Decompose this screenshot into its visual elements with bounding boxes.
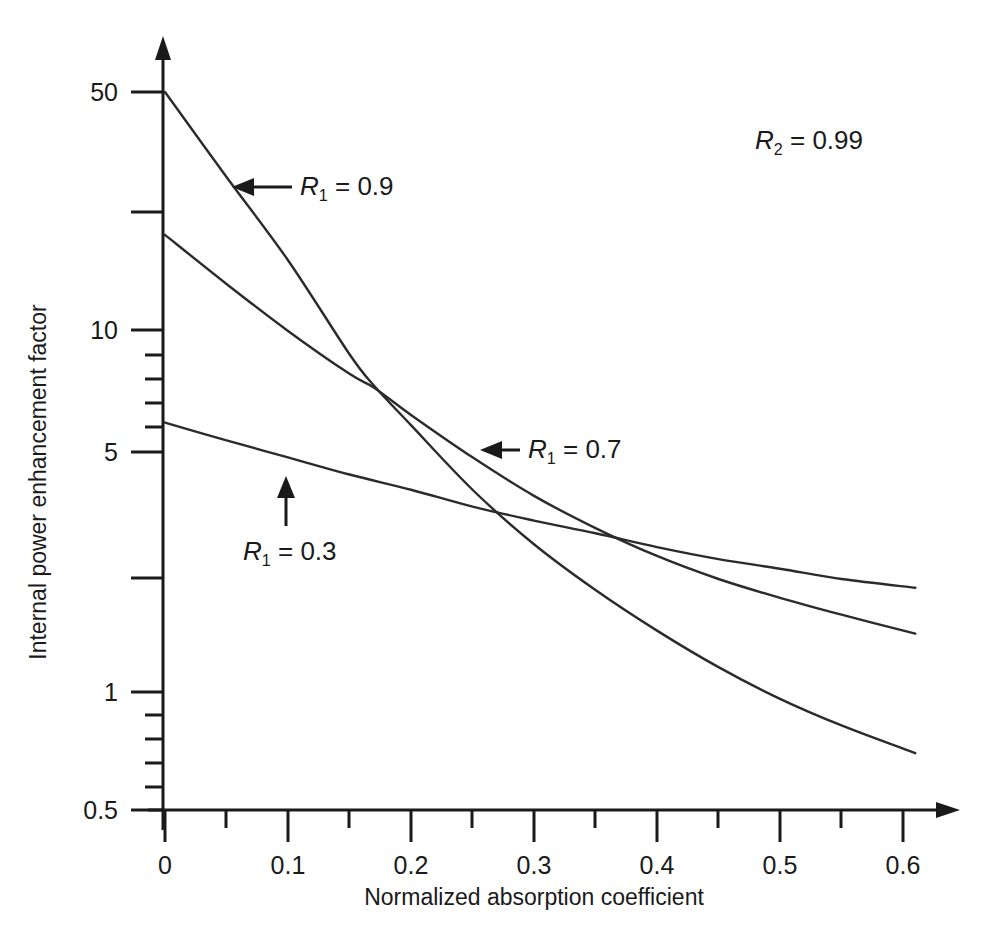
- y-tick-label-10: 10: [63, 318, 118, 343]
- x-axis-major-ticks: [165, 810, 903, 842]
- y-tick-label-5: 5: [63, 440, 118, 465]
- annotation-r1-07: R1 = 0.7: [528, 436, 622, 466]
- series-line-r1-0-9: [165, 92, 915, 753]
- annotation-r1-07-subscript: 1: [547, 449, 556, 467]
- annotation-r2: R2 = 0.99: [755, 127, 863, 157]
- data-series-group: [165, 92, 915, 753]
- y-axis-minor-ticks: [145, 355, 163, 787]
- y-axis-major-ticks: [131, 92, 163, 810]
- x-tick-label-0-1: 0.1: [271, 853, 306, 878]
- arrow-r1-09: [232, 178, 292, 196]
- x-tick-label-0: 0: [158, 853, 172, 878]
- x-tick-label-0-5: 0.5: [763, 853, 798, 878]
- x-tick-label-0-3: 0.3: [517, 853, 552, 878]
- x-tick-label-0-2: 0.2: [394, 853, 429, 878]
- annotation-r1-07-symbol: R: [528, 434, 547, 464]
- annotation-r1-03-value: = 0.3: [271, 536, 337, 566]
- y-tick-label-50: 50: [63, 80, 118, 105]
- arrow-r1-03: [277, 476, 295, 526]
- annotation-r2-symbol: R: [755, 125, 774, 155]
- y-axis: [155, 36, 171, 830]
- figure-canvas: 50 10 5 1 0.5 0 0.1 0.2 0.3 0.4 0.5 0.6 …: [0, 0, 1000, 945]
- annotation-r1-07-value: = 0.7: [556, 434, 622, 464]
- x-axis-title: Normalized absorption coefficient: [364, 886, 704, 909]
- annotation-r2-subscript: 2: [774, 140, 783, 158]
- annotation-r2-value: = 0.99: [783, 125, 863, 155]
- y-axis-title: Internal power enhancement factor: [25, 304, 52, 659]
- x-tick-label-0-4: 0.4: [640, 853, 675, 878]
- x-tick-label-0-6: 0.6: [886, 853, 921, 878]
- annotation-r1-09-symbol: R: [300, 171, 319, 201]
- y-tick-label-1: 1: [63, 680, 118, 705]
- annotation-r1-03-symbol: R: [243, 536, 262, 566]
- y-tick-label-0-5: 0.5: [43, 798, 118, 823]
- annotation-r1-09: R1 = 0.9: [300, 173, 394, 203]
- annotation-r1-09-subscript: 1: [319, 186, 328, 204]
- annotation-r1-03: R1 = 0.3: [243, 538, 337, 568]
- annotation-r1-09-value: = 0.9: [328, 171, 394, 201]
- arrow-r1-07: [480, 441, 520, 459]
- x-axis: [148, 802, 960, 818]
- annotation-r1-03-subscript: 1: [262, 551, 271, 569]
